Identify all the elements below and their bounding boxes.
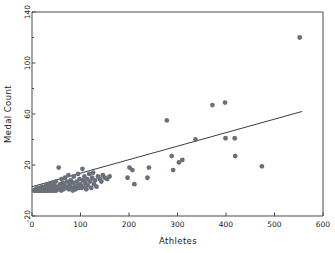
- data-point: [91, 170, 96, 175]
- x-tick-label: 400: [219, 220, 234, 229]
- plot-area: 0100200300400500600 -202060100140 Athlet…: [0, 0, 335, 253]
- data-point: [56, 165, 61, 170]
- y-tick-label: 100: [23, 56, 32, 71]
- y-axis-title: Medal Count: [3, 85, 13, 143]
- data-point: [223, 136, 228, 141]
- y-tick-label: -20: [23, 210, 32, 222]
- x-tick-label: 200: [122, 220, 137, 229]
- data-point: [169, 154, 174, 159]
- data-point: [94, 184, 99, 189]
- data-point: [71, 174, 76, 179]
- x-axis-title: Athletes: [159, 236, 197, 246]
- data-point: [130, 168, 135, 173]
- data-point: [132, 182, 137, 187]
- x-tick-label: 100: [73, 220, 88, 229]
- data-point: [107, 174, 112, 179]
- x-tick-label: 500: [267, 220, 282, 229]
- data-points-group: [32, 35, 303, 193]
- x-tick-label: 600: [316, 220, 331, 229]
- data-point: [232, 136, 237, 141]
- data-point: [223, 100, 228, 105]
- data-point: [180, 158, 185, 163]
- data-point: [125, 175, 130, 180]
- data-point: [76, 172, 81, 177]
- data-point: [66, 173, 71, 178]
- data-point: [259, 164, 264, 169]
- data-point: [233, 154, 238, 159]
- data-point: [171, 168, 176, 173]
- scatter-chart: 0100200300400500600 -202060100140 Athlet…: [0, 0, 335, 253]
- x-tick-label: 300: [170, 220, 185, 229]
- data-point: [80, 166, 85, 171]
- data-point: [145, 175, 150, 180]
- y-tick-label: 140: [23, 5, 32, 20]
- data-point: [99, 179, 104, 184]
- data-point: [164, 118, 169, 123]
- data-point: [53, 179, 58, 184]
- data-point: [89, 186, 94, 191]
- y-tick-label: 20: [23, 160, 32, 170]
- data-point: [210, 103, 215, 108]
- data-point: [146, 165, 151, 170]
- data-point: [93, 178, 98, 183]
- data-point: [297, 35, 302, 40]
- y-tick-label: 60: [23, 109, 32, 119]
- x-axis-ticks: 0100200300400500600: [30, 213, 331, 230]
- data-point: [193, 137, 198, 142]
